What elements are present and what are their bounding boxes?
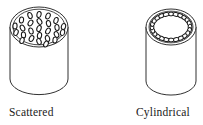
hole-12 [54,24,59,31]
hole-18 [37,32,42,39]
hole-9 [13,23,18,30]
hole-25 [52,37,57,44]
cylindrical-cylinder [146,9,196,95]
figure-page: Scattered Cylindrical [0,0,203,125]
cylinder-group [10,7,196,95]
caption-scattered: Scattered [9,106,54,118]
scattered-cylinder [10,7,68,95]
hole-4 [19,17,24,24]
caption-cylindrical: Cylindrical [136,106,190,118]
hole-24 [163,12,169,17]
